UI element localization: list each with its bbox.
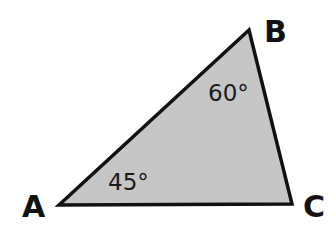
vertex-label-a: A <box>22 189 46 224</box>
triangle-abc <box>59 30 292 205</box>
angle-label-b: 60° <box>208 80 249 106</box>
angle-label-a: 45° <box>108 169 149 195</box>
vertex-label-b: B <box>264 14 287 49</box>
vertex-label-c: C <box>303 189 325 224</box>
triangle-diagram: A B C 45° 60° <box>0 0 336 242</box>
